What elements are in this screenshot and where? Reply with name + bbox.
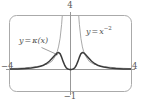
kappa-leader-dot xyxy=(56,54,58,56)
function-curve-label: y=x−2 xyxy=(86,26,112,36)
axis-label-top: 4 xyxy=(67,1,72,10)
function-label-operator: = xyxy=(91,27,100,36)
curve-curvature-left xyxy=(10,53,71,70)
curvature-label-rhs: κ(x) xyxy=(32,36,48,45)
function-label-lhs: y xyxy=(86,27,91,36)
curvature-curve-label: y=κ(x) xyxy=(19,37,48,45)
kappa-leader-line xyxy=(42,48,57,55)
curve-curvature-right xyxy=(71,53,132,70)
curvature-label-lhs: y xyxy=(19,36,24,45)
curve-function-right xyxy=(79,13,132,69)
curvature-label-operator: = xyxy=(24,36,33,45)
function-label-exponent: −2 xyxy=(104,25,112,31)
axis-label-right: 4 xyxy=(132,62,137,71)
axis-label-left: −4 xyxy=(1,62,14,71)
axis-label-bottom: −1 xyxy=(64,92,77,101)
